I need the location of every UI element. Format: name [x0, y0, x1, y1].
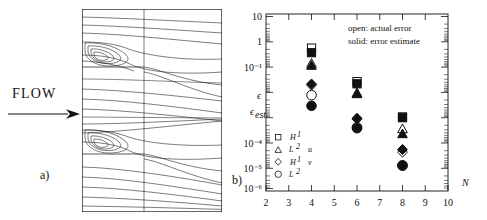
svg-text:L: L [288, 145, 294, 154]
svg-text:est: est [255, 109, 266, 120]
marker-diamond-solid [307, 79, 317, 89]
y-tick-label: 10 [252, 11, 262, 22]
y-tick-label: 10⁻⁵ [244, 163, 263, 174]
y-axis-label-epsilon-est: ϵ est [250, 106, 266, 120]
legend-label-2: H 1 v [289, 155, 312, 168]
x-tick-label: 3 [286, 197, 291, 208]
figure-root: FLOW a) [0, 0, 487, 220]
svg-text:H: H [289, 158, 297, 167]
streamline-plot [82, 9, 222, 212]
marker-circle-solid [352, 123, 362, 133]
marker-circle-solid [307, 101, 317, 111]
annotation-open: open: actual error [348, 23, 411, 33]
legend-label-3: L 2 [288, 167, 300, 180]
legend-marker-square-open [276, 135, 281, 140]
x-tick-label: 9 [423, 197, 428, 208]
svg-text:1: 1 [297, 155, 301, 164]
panel-a-streamlines: FLOW a) [0, 0, 230, 220]
marker-circle-solid [398, 161, 408, 171]
panel-a-label: a) [40, 168, 49, 183]
x-tick-label: 2 [264, 197, 269, 208]
x-tick-label: 6 [355, 197, 360, 208]
y-tick-label: 10⁻⁴ [244, 138, 263, 149]
data-cluster-n6 [352, 78, 362, 134]
data-cluster-n8 [398, 113, 408, 171]
y-axis-label-epsilon: ϵ [257, 90, 262, 101]
svg-text:u: u [308, 145, 312, 154]
marker-square-solid [307, 49, 315, 57]
svg-text:v: v [308, 158, 312, 167]
y-tick-label: 10⁻¹ [244, 62, 262, 73]
x-tick-label: 5 [332, 197, 337, 208]
right-arrow-icon [8, 108, 80, 120]
marker-circle-open [307, 90, 317, 100]
y-tick-label: 10⁻⁶ [244, 183, 263, 194]
marker-square-solid [398, 114, 406, 122]
svg-text:1: 1 [297, 130, 301, 139]
panel-b-error-plot: b) [230, 0, 487, 220]
legend-marker-diamond-open [275, 158, 281, 165]
data-cluster-n4 [307, 44, 317, 111]
annotation-solid: solid: error estimate [348, 36, 420, 46]
chart-legend: H 1 L 2 u H 1 v [275, 130, 312, 180]
error-convergence-chart: 2 3 4 5 6 7 8 9 10 N [230, 0, 487, 220]
y-tick-label: 1 [257, 36, 262, 47]
x-axis-label: N [461, 177, 470, 188]
legend-marker-circle-open [275, 171, 281, 177]
legend-label-1: L 2 u [288, 142, 312, 155]
svg-text:H: H [289, 133, 297, 142]
svg-text:2: 2 [296, 167, 300, 176]
x-tick-label: 8 [400, 197, 405, 208]
legend-label-0: H 1 [289, 130, 301, 143]
marker-diamond-solid [352, 113, 362, 123]
x-tick-label: 10 [443, 197, 453, 208]
x-tick-label: 7 [377, 197, 382, 208]
x-tick-label: 4 [309, 197, 314, 208]
svg-text:L: L [288, 170, 294, 179]
legend-marker-triangle-open [275, 147, 281, 153]
marker-square-solid [353, 80, 361, 88]
flow-label: FLOW [12, 86, 56, 102]
svg-text:2: 2 [296, 142, 300, 151]
